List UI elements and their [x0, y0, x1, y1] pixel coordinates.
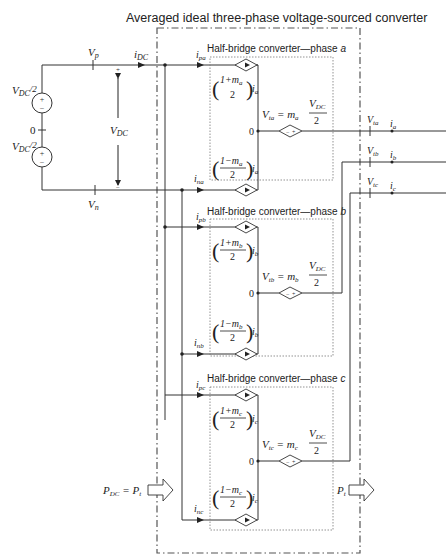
power-out-arrow-icon	[349, 479, 374, 501]
plus-sign: +	[40, 95, 45, 104]
vtc-terminal-label: Vtc	[367, 176, 379, 189]
inc-label: inc	[194, 503, 204, 516]
dc-source-bottom: + −	[32, 147, 52, 167]
power-in-label: PDC = Pt	[102, 484, 142, 498]
vtb-terminal-label: Vtb	[367, 145, 379, 158]
phase-b-title: Half-bridge converter—phase b	[207, 206, 346, 217]
vdc-plus: +	[116, 66, 120, 74]
power-out-label: Pt	[336, 484, 347, 498]
junction-dots	[163, 63, 184, 356]
ib-label: ib	[390, 149, 397, 162]
svg-text:2: 2	[230, 498, 235, 509]
svg-text:1+ma: 1+ma	[220, 74, 243, 87]
svg-text:0: 0	[249, 456, 254, 467]
midpoint-label: 0	[30, 124, 36, 136]
source-top-label: VDC/2	[12, 84, 37, 98]
svg-text:(: (	[212, 76, 219, 101]
svg-text:2: 2	[230, 89, 235, 100]
svg-text:1−mb: 1−mb	[220, 318, 243, 331]
svg-text:1−mc: 1−mc	[220, 484, 243, 497]
internal-dc-buses	[165, 65, 258, 520]
converter-diagram: Averaged ideal three-phase voltage-sourc…	[0, 0, 446, 559]
svg-text:VDC: VDC	[309, 97, 326, 111]
vdc-minus: −	[116, 184, 120, 192]
ia-label: ia	[390, 118, 397, 131]
diagram-title: Averaged ideal three-phase voltage-sourc…	[126, 11, 427, 25]
minus-sign: −	[40, 104, 45, 113]
svg-text:(: (	[212, 238, 219, 263]
svg-text:2: 2	[314, 277, 319, 288]
ipa-label: ipa	[196, 49, 206, 62]
ipc-label: ipc	[196, 379, 206, 392]
idc-arrow-icon	[138, 62, 145, 68]
half-bridge-phase-a: Half-bridge converter—phase a ipa ina ( …	[194, 43, 446, 196]
svg-text:Vtc = mc: Vtc = mc	[262, 438, 299, 452]
inb-label: inb	[194, 337, 204, 350]
idc-label: iDC	[134, 48, 149, 62]
phase-a-title: Half-bridge converter—phase a	[207, 43, 346, 54]
vn-label: Vn	[88, 198, 99, 212]
svg-text:1+mc: 1+mc	[220, 405, 243, 418]
svg-text:VDC: VDC	[309, 427, 326, 441]
circuit-canvas: Averaged ideal three-phase voltage-sourc…	[0, 0, 446, 559]
ina-label: ina	[194, 173, 204, 186]
svg-text:1+mb: 1+mb	[220, 237, 243, 250]
dc-source-top: + −	[32, 93, 52, 113]
vta-terminal-label: Vta	[367, 114, 379, 127]
plus-sign: +	[40, 149, 45, 158]
svg-text:(: (	[212, 156, 219, 181]
svg-text:(: (	[212, 485, 219, 510]
svg-text:2: 2	[230, 169, 235, 180]
svg-text:0: 0	[249, 288, 254, 299]
minus-sign: −	[40, 158, 45, 167]
power-in-arrow-icon	[148, 479, 173, 501]
vdc-label: VDC	[110, 124, 129, 138]
ipb-label: ipb	[196, 211, 206, 224]
svg-text:(: (	[212, 319, 219, 344]
svg-text:Vta = ma: Vta = ma	[262, 108, 299, 122]
ic-label: ic	[390, 180, 397, 193]
vp-label: Vp	[88, 46, 99, 60]
svg-text:Vtb = mb: Vtb = mb	[262, 270, 299, 284]
svg-text:1−ma: 1−ma	[220, 155, 243, 168]
svg-text:2: 2	[314, 445, 319, 456]
phase-c-title: Half-bridge converter—phase c	[207, 373, 345, 384]
svg-text:(: (	[212, 406, 219, 431]
svg-text:2: 2	[230, 332, 235, 343]
svg-text:2: 2	[230, 251, 235, 262]
half-bridge-phase-b: Half-bridge converter—phase b ipb inb ( …	[194, 162, 446, 360]
svg-text:2: 2	[230, 419, 235, 430]
svg-text:0: 0	[249, 126, 254, 137]
svg-text:2: 2	[314, 115, 319, 126]
svg-text:VDC: VDC	[309, 259, 326, 273]
